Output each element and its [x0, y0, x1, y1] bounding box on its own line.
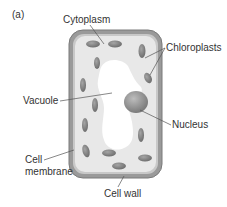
label-vacuole: Vacuole [23, 95, 58, 106]
label-cytoplasm: Cytoplasm [63, 14, 110, 25]
panel-label: (a) [12, 9, 24, 20]
label-nucleus: Nucleus [172, 119, 208, 130]
label-cell-wall: Cell wall [104, 188, 141, 199]
nucleus [124, 91, 148, 113]
label-cell-membrane-line1: Cell [25, 154, 42, 165]
label-chloroplasts: Chloroplasts [166, 42, 222, 53]
label-cell-membrane-line2: membrane [25, 166, 73, 177]
